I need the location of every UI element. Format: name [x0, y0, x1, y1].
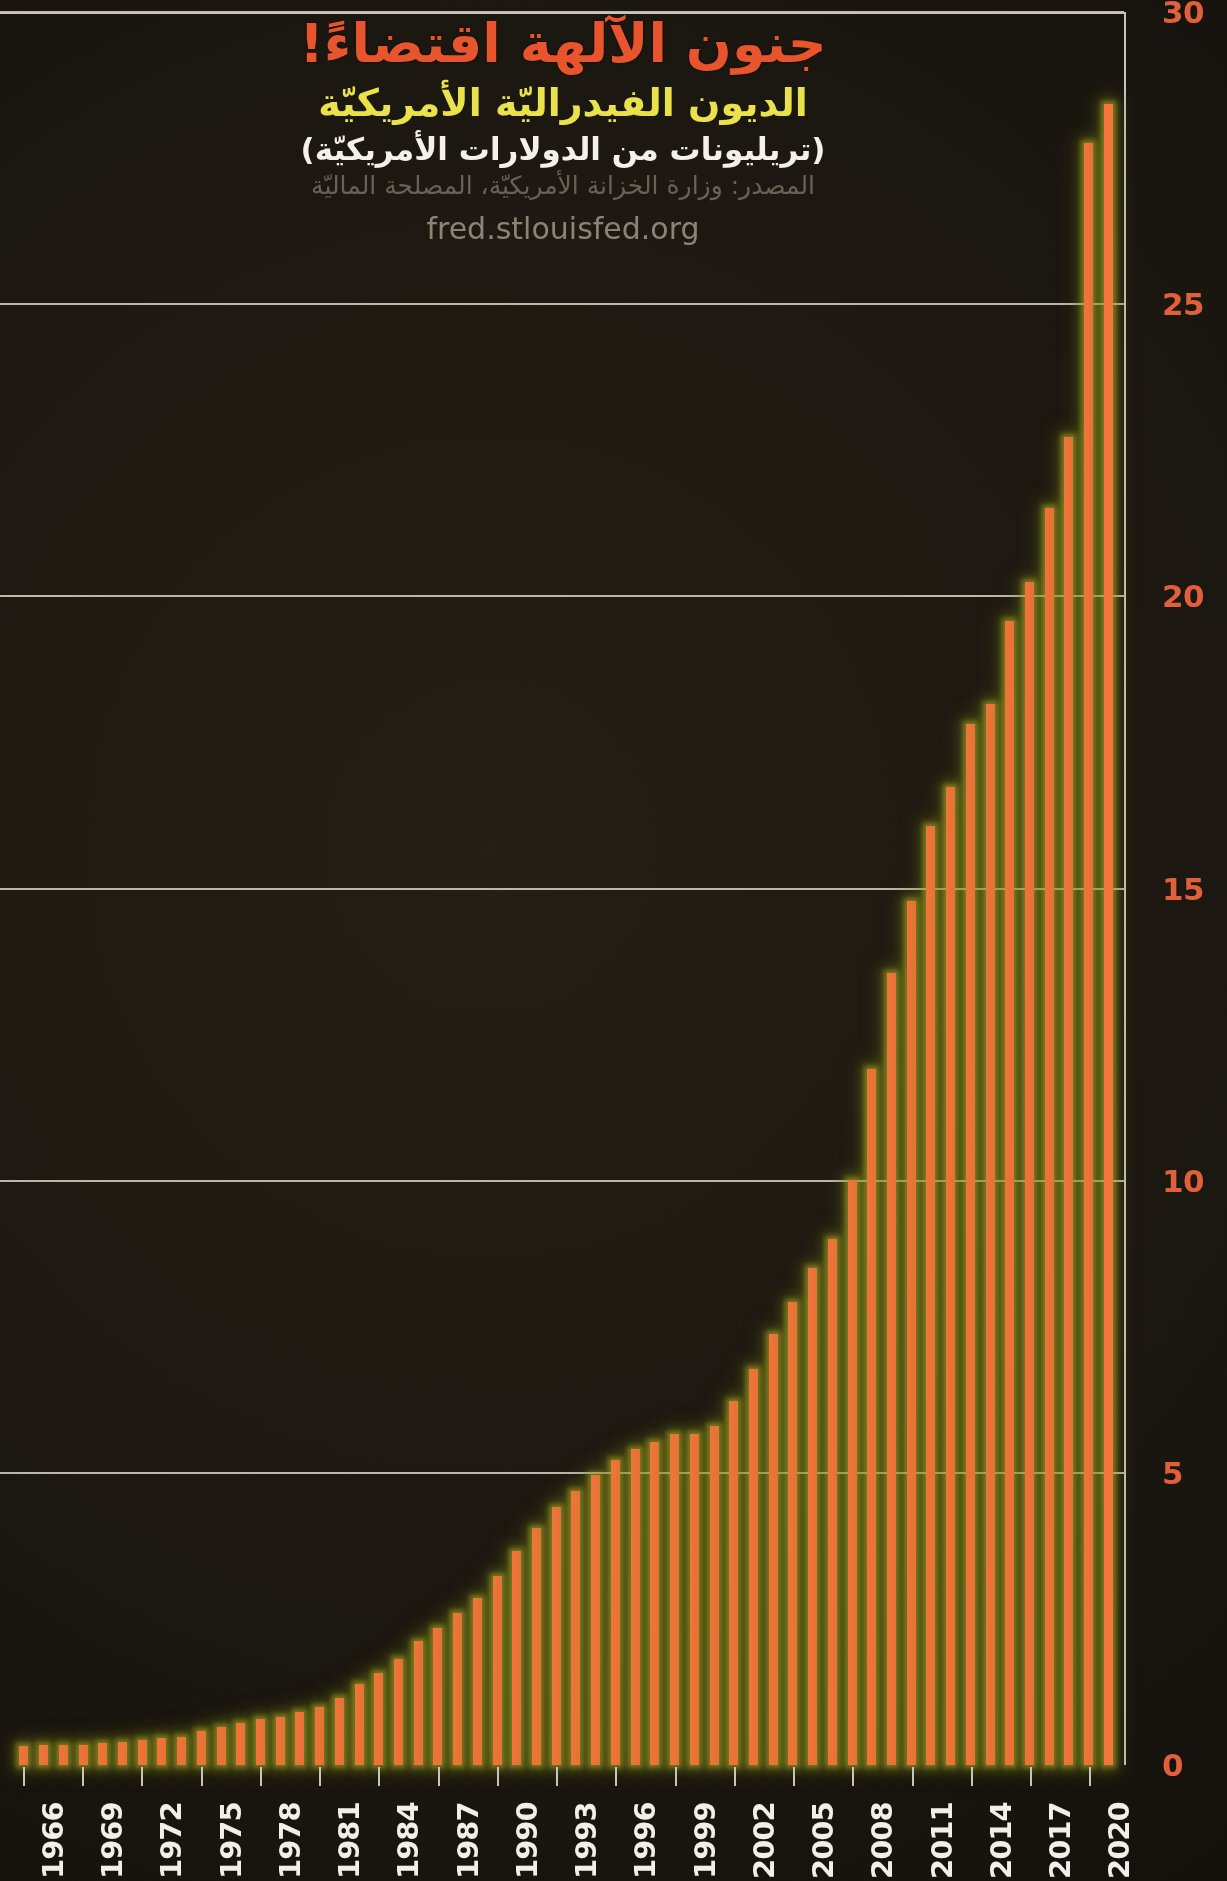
bar [552, 1507, 561, 1765]
bar [1084, 143, 1093, 1765]
bar-slot [625, 14, 645, 1765]
x-axis-tick-mark [556, 1767, 558, 1786]
y-axis-tick-label-10: 10 [1162, 1163, 1204, 1199]
bar-slot [527, 14, 547, 1765]
bar [335, 1698, 344, 1765]
plot-area [0, 12, 1126, 1765]
bar [670, 1434, 679, 1765]
bar-slot [921, 14, 941, 1765]
x-axis-tick-label: 1981 [332, 1802, 366, 1879]
x-axis-tick-label: 2020 [1102, 1802, 1136, 1879]
bar-slot [763, 14, 783, 1765]
x-axis-tick-mark [615, 1767, 617, 1786]
bar-slot [961, 14, 981, 1765]
bar-slot [684, 14, 704, 1765]
bar [118, 1742, 127, 1765]
bar [591, 1475, 600, 1765]
x-axis-tick-mark [141, 1767, 143, 1786]
x-axis-tick-mark [971, 1767, 973, 1786]
y-axis-tick-label-20: 20 [1162, 578, 1204, 614]
bar-slot [14, 14, 34, 1765]
y-axis-tick-label-30: 30 [1162, 0, 1204, 30]
bar-slot [586, 14, 606, 1765]
bar [315, 1707, 324, 1765]
y-axis-tick-label-0: 0 [1162, 1747, 1183, 1783]
x-axis-tick-mark [793, 1767, 795, 1786]
bar [611, 1460, 620, 1765]
x-axis-tick-label: 1975 [214, 1802, 248, 1879]
bar [966, 724, 975, 1765]
bar [355, 1684, 364, 1765]
bar [157, 1738, 166, 1765]
bar-slot [665, 14, 685, 1765]
x-axis-tick-mark [734, 1767, 736, 1786]
bar-slot [290, 14, 310, 1765]
bar [828, 1239, 837, 1765]
x-axis-tick-label: 1999 [688, 1802, 722, 1879]
bar [217, 1727, 226, 1765]
bar-slot [507, 14, 527, 1765]
bar-slot [172, 14, 192, 1765]
x-axis-tick-label: 2002 [747, 1802, 781, 1879]
bar-slot [93, 14, 113, 1765]
bar [19, 1746, 28, 1765]
bar-slot [1079, 14, 1099, 1765]
bar [650, 1442, 659, 1765]
x-axis-tick-label: 1966 [36, 1802, 70, 1879]
bar-slot [980, 14, 1000, 1765]
bar [986, 704, 995, 1765]
bar [532, 1528, 541, 1765]
bar [1045, 508, 1054, 1765]
x-axis-tick-label: 2014 [984, 1802, 1018, 1879]
bar-slot [310, 14, 330, 1765]
bar [79, 1745, 88, 1765]
bar-slot [704, 14, 724, 1765]
bar-slot [468, 14, 488, 1765]
bar [788, 1302, 797, 1765]
bar-slot [645, 14, 665, 1765]
bar-slot [882, 14, 902, 1765]
x-axis-tick-label: 1996 [628, 1802, 662, 1879]
y-axis-tick-label-5: 5 [1162, 1455, 1183, 1491]
y-axis-tick-label-25: 25 [1162, 286, 1204, 322]
x-axis-tick-mark [82, 1767, 84, 1786]
bar-slot [822, 14, 842, 1765]
bar [473, 1598, 482, 1765]
bar [138, 1740, 147, 1765]
y-axis-tick-label-15: 15 [1162, 871, 1204, 907]
bar [39, 1745, 48, 1765]
x-axis-tick-mark [1089, 1767, 1091, 1786]
bar-slot [330, 14, 350, 1765]
bar [710, 1426, 719, 1765]
bar-slot [783, 14, 803, 1765]
x-axis-tick-mark [378, 1767, 380, 1786]
bar [1064, 437, 1073, 1765]
bar [946, 787, 955, 1765]
bar [769, 1334, 778, 1765]
x-axis-tick-mark [438, 1767, 440, 1786]
bar [867, 1069, 876, 1765]
bar-slot [862, 14, 882, 1765]
bar [1005, 621, 1014, 1765]
bar [374, 1673, 383, 1765]
bar [907, 901, 916, 1765]
x-axis-tick-mark [852, 1767, 854, 1786]
x-axis-tick-label: 2005 [806, 1802, 840, 1879]
bar-slot [941, 14, 961, 1765]
bar-slot [1099, 14, 1119, 1765]
bar [1025, 582, 1034, 1765]
bar-slot [1059, 14, 1079, 1765]
bar-slot [73, 14, 93, 1765]
chart-page: 051015202530 196619691972197519781981198… [0, 0, 1227, 1881]
bar-slot [231, 14, 251, 1765]
x-axis-tick-mark [1030, 1767, 1032, 1786]
x-axis-tick-label: 1987 [451, 1802, 485, 1879]
bar [453, 1613, 462, 1765]
bar-slot [1020, 14, 1040, 1765]
bar-slot [191, 14, 211, 1765]
bar-slot [901, 14, 921, 1765]
x-axis-tick-label: 1978 [273, 1802, 307, 1879]
x-axis-tick-mark [260, 1767, 262, 1786]
bar-slot [1000, 14, 1020, 1765]
bar [433, 1628, 442, 1765]
